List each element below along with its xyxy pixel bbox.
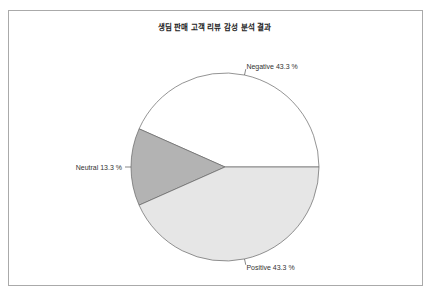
label-tick: [245, 69, 246, 75]
slice-label-positive: Positive 43.3 %: [246, 264, 294, 271]
slice-label-negative: Negative 43.3 %: [246, 63, 297, 71]
pie-slices: [131, 73, 319, 261]
slice-label-neutral: Neutral 13.3 %: [76, 164, 122, 171]
pie-chart: Negative 43.3 %Neutral 13.3 %Positive 43…: [0, 0, 429, 295]
